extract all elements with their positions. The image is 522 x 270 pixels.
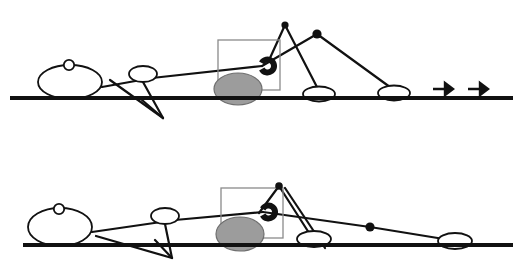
- panel-bottom-group: [23, 182, 513, 258]
- panel-bottom-mid-ellipse: [151, 208, 179, 224]
- panel-bottom-joint-2: [365, 222, 374, 231]
- panel-bottom-head-knob: [54, 204, 64, 214]
- diagram-stage: [0, 0, 522, 270]
- panel-bottom-long-arm: [263, 212, 450, 240]
- panel-bottom-joint-1: [275, 182, 283, 190]
- panel-bottom: [0, 0, 522, 270]
- panel-bottom-thigh: [279, 186, 311, 236]
